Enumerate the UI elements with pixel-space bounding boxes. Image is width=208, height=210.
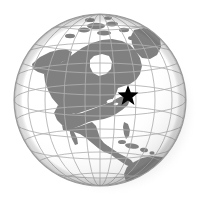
globe-illustration [0,0,208,210]
sphere-shading [14,14,186,186]
globe-svg [0,0,208,210]
